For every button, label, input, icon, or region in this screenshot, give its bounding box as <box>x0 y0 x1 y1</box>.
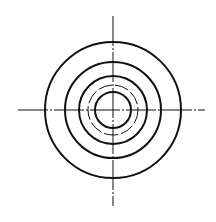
concentric-circles-diagram <box>0 0 216 222</box>
